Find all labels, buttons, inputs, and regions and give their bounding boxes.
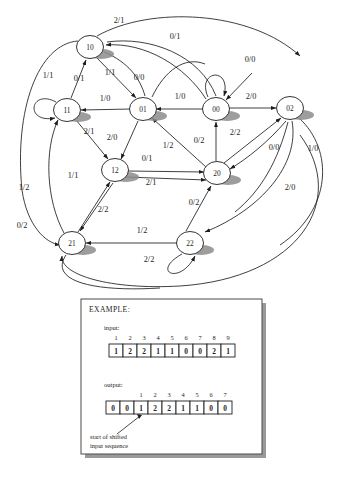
edge-label-10-01b: 0/0	[134, 73, 145, 82]
output-index: 6	[209, 391, 212, 398]
output-cell: 0	[120, 401, 134, 414]
input-cell: 2	[207, 344, 221, 357]
state-node-00[interactable]: 00	[203, 98, 230, 121]
edge-21-11	[49, 120, 64, 233]
state-label-22: 22	[186, 239, 194, 248]
state-label-01: 01	[139, 105, 147, 114]
edge-label-far-10: 1/0	[308, 144, 319, 153]
output-cell: 0	[218, 401, 232, 414]
edge-label-20-00: 0/2	[194, 136, 205, 145]
input-index: 6	[184, 334, 187, 341]
state-node-21[interactable]: 21	[59, 232, 86, 255]
state-node-12[interactable]: 12	[102, 159, 129, 182]
edge-label-12-22: 2/1	[146, 178, 157, 187]
state-node-10[interactable]: 10	[77, 36, 104, 59]
output-cell-value: 2	[167, 404, 171, 413]
edge-label-22-21: 1/2	[137, 226, 148, 235]
input-cell: 2	[137, 344, 151, 357]
edge-01-12	[121, 121, 138, 159]
state-label-02: 02	[286, 104, 294, 113]
edge-labels-group: 2/1 0/1 0/0 1/1 0/1 1/1 0/0 1/0 1/0 2/0 …	[17, 16, 319, 264]
edge-11-self-loop	[34, 99, 56, 119]
output-cell-value: 0	[111, 404, 115, 413]
output-cell-value: 1	[195, 404, 199, 413]
edge-01-11	[81, 109, 131, 110]
edge-arc-into-10b	[107, 41, 216, 96]
example-box	[81, 299, 262, 454]
input-sequence-row: 1 2 2 1 1 0 0 2 1	[109, 344, 235, 357]
edge-label-20-02: 2/2	[230, 128, 241, 137]
edge-label-left-12: 1/2	[19, 183, 30, 192]
output-cell: 0	[204, 401, 218, 414]
output-cell: 0	[106, 401, 120, 414]
edge-label-12-21: 2/2	[98, 205, 109, 214]
state-node-22[interactable]: 22	[177, 232, 204, 255]
output-cell: 2	[162, 401, 176, 414]
output-cell-value: 0	[125, 404, 129, 413]
edge-label-21-12: 1/1	[68, 171, 79, 180]
edge-label-12-20: 0/1	[142, 154, 153, 163]
input-cell-value: 2	[142, 347, 146, 356]
output-index: 1	[139, 391, 142, 398]
input-cell-value: 1	[226, 347, 230, 356]
edge-label-20-01: 1/2	[163, 141, 174, 150]
edge-label-10-02: 2/1	[114, 16, 125, 25]
edge-label-11-10: 0/1	[74, 74, 85, 83]
caption-line-2: input sequence	[90, 442, 128, 449]
state-label-20: 20	[213, 169, 221, 178]
example-title: EXAMPLE:	[89, 305, 130, 314]
input-cell: 1	[151, 344, 165, 357]
input-index: 9	[226, 334, 229, 341]
state-label-10: 10	[86, 43, 94, 52]
output-index: 2	[153, 391, 156, 398]
edge-label-22-20: 0/2	[189, 198, 200, 207]
input-cell-value: 0	[184, 347, 188, 356]
input-index: 2	[128, 334, 131, 341]
edge-12-20	[128, 171, 204, 172]
state-node-02[interactable]: 02	[277, 97, 304, 120]
edge-label-00-self: 0/0	[245, 55, 256, 64]
state-diagram-canvas: 10 11 01 00 02 12 20 21	[0, 0, 353, 300]
state-node-20[interactable]: 20	[204, 162, 231, 185]
state-diagram: 10 11 01 00 02 12 20 21	[0, 0, 353, 300]
state-node-01[interactable]: 01	[130, 98, 157, 121]
input-cell-value: 1	[156, 347, 160, 356]
output-cell-value: 2	[153, 404, 157, 413]
output-cell: 1	[134, 401, 148, 414]
edge-20-02	[224, 118, 281, 163]
output-cell-value: 1	[181, 404, 185, 413]
edge-label-01-11: 1/0	[100, 94, 111, 103]
state-label-11: 11	[63, 106, 70, 115]
input-cell-value: 1	[170, 347, 174, 356]
input-cell: 0	[193, 344, 207, 357]
edge-label-10-01a: 1/1	[105, 68, 116, 77]
edge-10-02	[97, 17, 300, 56]
edge-22-20	[186, 186, 211, 231]
edge-label-00-01: 1/0	[175, 92, 186, 101]
edge-label-11-self: 1/1	[43, 71, 54, 80]
output-index: 5	[195, 391, 198, 398]
input-cell: 1	[221, 344, 235, 357]
input-index: 3	[142, 334, 145, 341]
input-cell: 1	[165, 344, 179, 357]
edge-label-02-20: 0/0	[269, 143, 280, 152]
edge-22-self-loop	[168, 254, 195, 273]
input-cell: 1	[109, 344, 123, 357]
output-cell: 1	[190, 401, 204, 414]
edge-11-12	[76, 120, 108, 159]
input-cell-value: 1	[114, 347, 118, 356]
input-cell-value: 2	[128, 347, 132, 356]
state-node-11[interactable]: 11	[54, 99, 81, 122]
output-label: output:	[104, 381, 123, 388]
edge-label-01-12: 2/0	[107, 133, 118, 142]
edge-label-00-02: 2/0	[246, 92, 257, 101]
edge-label-far-20: 2/0	[285, 183, 296, 192]
edge-label-22-self: 2/2	[144, 255, 155, 264]
state-label-21: 21	[68, 239, 76, 248]
state-label-00: 00	[212, 105, 220, 114]
state-label-12: 12	[111, 166, 119, 175]
edge-10-01	[97, 58, 136, 98]
edge-label-left-21: 0/2	[17, 221, 28, 230]
input-index: 5	[170, 334, 173, 341]
input-index: 1	[114, 334, 117, 341]
